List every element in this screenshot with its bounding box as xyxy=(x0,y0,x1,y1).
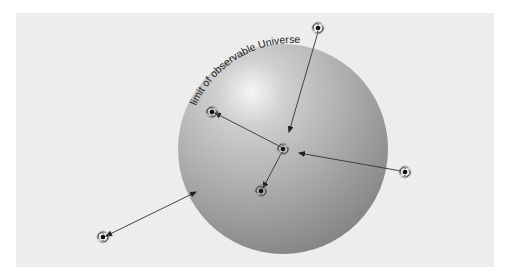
observable-universe-diagram: limit of observable Universe xyxy=(0,0,509,277)
galaxy-icon-right xyxy=(399,166,411,178)
arrow-lower-left-galaxy xyxy=(106,192,196,236)
galaxy-icon-top xyxy=(312,22,324,34)
galaxy-icon-lower-left xyxy=(97,231,109,243)
